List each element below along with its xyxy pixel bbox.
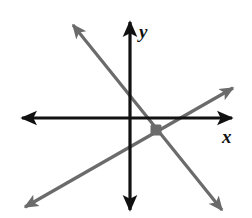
- y-axis-label: y: [139, 22, 147, 41]
- intersection-point: [151, 125, 162, 136]
- coordinate-plane-figure: y x: [0, 0, 252, 218]
- x-axis-label: x: [222, 127, 232, 146]
- figure-background: [0, 0, 252, 218]
- graph-canvas: [0, 0, 252, 218]
